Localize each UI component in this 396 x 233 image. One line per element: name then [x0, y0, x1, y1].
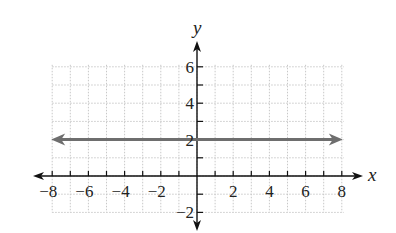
y-tick-label: −2	[176, 203, 194, 222]
x-tick-label: 6	[301, 182, 310, 201]
coordinate-plane: −8−6−4−22468−2246xy	[0, 0, 396, 233]
y-tick-label: 2	[186, 131, 195, 150]
x-tick-label: 4	[265, 182, 274, 201]
y-axis-label: y	[191, 17, 202, 38]
x-tick-label: −8	[39, 182, 57, 201]
x-tick-label: −6	[75, 182, 93, 201]
x-tick-label: 8	[338, 182, 347, 201]
tick-labels: −8−6−4−22468−2246xy	[39, 17, 377, 222]
y-tick-label: 4	[186, 94, 195, 113]
axes	[33, 41, 363, 231]
x-tick-label: −4	[112, 182, 131, 201]
x-tick-label: 2	[229, 182, 238, 201]
y-tick-label: 6	[186, 58, 195, 77]
x-axis-label: x	[367, 164, 377, 185]
x-tick-label: −2	[148, 182, 166, 201]
